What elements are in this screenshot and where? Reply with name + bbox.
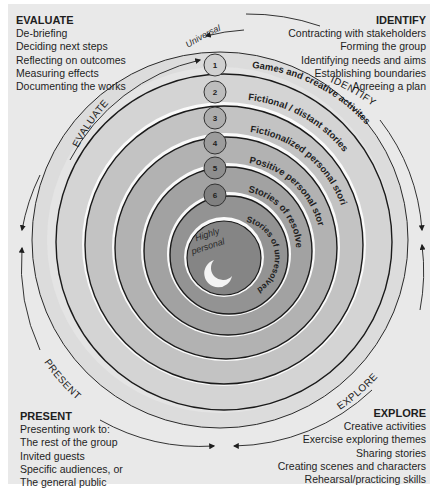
- present-title: PRESENT: [20, 410, 123, 423]
- explore-item: Sharing stories: [278, 447, 426, 460]
- explore-item: Exercise exploring themes: [278, 433, 426, 446]
- level-4-number: 4: [213, 139, 218, 148]
- identify-block: IDENTIFY Contracting with stakeholders F…: [288, 14, 426, 93]
- present-arc-label: PRESENT: [42, 357, 83, 402]
- identify-item: Agreeing a plan: [288, 80, 426, 93]
- identify-item: Identifying needs and aims: [288, 54, 426, 67]
- explore-block: EXPLORE Creative activities Exercise exp…: [278, 407, 426, 486]
- level-6-number: 6: [213, 191, 218, 200]
- level-1-number: 1: [213, 61, 218, 70]
- present-item: The general public: [20, 476, 123, 489]
- evaluate-item: De-briefing: [16, 27, 126, 40]
- present-item: The rest of the group: [20, 436, 123, 449]
- present-item: Specific audiences, or: [20, 463, 123, 476]
- evaluate-item: Measuring effects: [16, 67, 126, 80]
- identify-title: IDENTIFY: [288, 14, 426, 27]
- evaluate-item: Deciding next steps: [16, 40, 126, 53]
- present-item: Invited guests: [20, 450, 123, 463]
- evaluate-title: EVALUATE: [16, 14, 126, 27]
- evaluate-item: Reflecting on outcomes: [16, 54, 126, 67]
- level-2-number: 2: [213, 88, 218, 97]
- level-5-number: 5: [213, 164, 218, 173]
- identify-item: Contracting with stakeholders: [288, 27, 426, 40]
- explore-title: EXPLORE: [278, 407, 426, 420]
- identify-item: Establishing boundaries: [288, 67, 426, 80]
- level-3-number: 3: [213, 114, 218, 123]
- present-block: PRESENT Presenting work to: The rest of …: [20, 410, 123, 489]
- universal-label: Universal: [184, 23, 223, 50]
- explore-item: Rehearsal/practicing skills: [278, 473, 426, 486]
- identify-item: Forming the group: [288, 40, 426, 53]
- evaluate-block: EVALUATE De-briefing Deciding next steps…: [16, 14, 126, 93]
- explore-item: Creative activities: [278, 420, 426, 433]
- explore-item: Creating scenes and characters: [278, 460, 426, 473]
- present-item: Presenting work to:: [20, 423, 123, 436]
- evaluate-item: Documenting the works: [16, 80, 126, 93]
